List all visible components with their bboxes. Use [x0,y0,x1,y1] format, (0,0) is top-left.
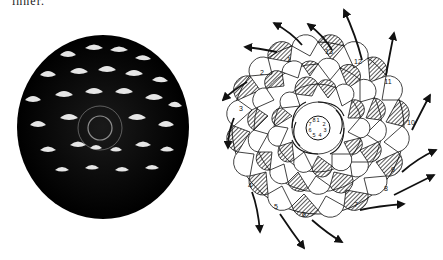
svg-text:5: 5 [274,203,278,210]
spiral-scale-diagram: 1 2 3 4 5 6 7 8 1 2 3 4 5 6 7 8 9 10 11 … [222,0,443,260]
svg-text:6: 6 [302,211,306,218]
svg-text:8: 8 [384,185,388,192]
cropped-caption-text: inner. [12,0,45,9]
svg-text:2: 2 [260,69,264,76]
svg-text:3: 3 [239,105,243,112]
svg-text:11: 11 [384,78,391,85]
svg-text:5: 5 [312,132,315,138]
svg-text:9: 9 [391,166,395,173]
svg-text:4: 4 [318,132,321,138]
svg-text:3: 3 [323,127,326,133]
pine-cone-photo [0,30,220,230]
svg-text:1: 1 [316,117,319,123]
svg-text:7: 7 [308,121,311,127]
svg-text:7: 7 [354,201,358,208]
svg-text:8: 8 [312,117,315,123]
svg-text:1: 1 [287,56,291,63]
svg-text:6: 6 [308,127,311,133]
svg-text:4: 4 [248,182,252,189]
svg-text:12: 12 [354,58,362,65]
